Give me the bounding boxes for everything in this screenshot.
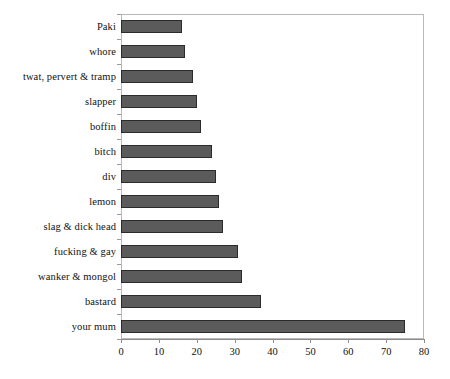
- bar: [121, 120, 201, 133]
- category-label: fucking & gay: [54, 246, 116, 258]
- bar-row: slag & dick head: [0, 214, 450, 239]
- bar: [121, 220, 223, 233]
- bar-track: [121, 264, 424, 289]
- category-label: slapper: [85, 96, 116, 108]
- category-label: slag & dick head: [44, 221, 116, 233]
- bar-row: bitch: [0, 139, 450, 164]
- bar-track: [121, 239, 424, 264]
- x-axis-tick-label: 70: [381, 345, 392, 358]
- bar-track: [121, 314, 424, 339]
- bar-row: fucking & gay: [0, 239, 450, 264]
- bar-row: lemon: [0, 189, 450, 214]
- bar-track: [121, 214, 424, 239]
- bar: [121, 195, 219, 208]
- x-axis-tick: [348, 339, 349, 343]
- x-axis-tick-label: 80: [419, 345, 430, 358]
- bar: [121, 245, 238, 258]
- y-axis-tick: [117, 214, 121, 215]
- x-axis-tick-label: 30: [229, 345, 240, 358]
- category-label: boffin: [90, 121, 116, 133]
- x-axis-tick: [235, 339, 236, 343]
- bar-row: your mum: [0, 314, 450, 339]
- bar: [121, 145, 212, 158]
- bar: [121, 20, 182, 33]
- y-axis-tick: [117, 139, 121, 140]
- bar: [121, 320, 405, 333]
- bar-track: [121, 39, 424, 64]
- bar-row: Paki: [0, 14, 450, 39]
- y-axis-tick: [117, 239, 121, 240]
- x-axis-tick: [273, 339, 274, 343]
- y-axis-tick: [117, 89, 121, 90]
- x-axis-tick: [310, 339, 311, 343]
- y-axis-tick: [117, 164, 121, 165]
- category-label: your mum: [72, 321, 116, 333]
- bar-track: [121, 289, 424, 314]
- category-label: bastard: [85, 296, 116, 308]
- bar: [121, 45, 185, 58]
- y-axis-tick: [117, 289, 121, 290]
- y-axis-tick: [117, 114, 121, 115]
- bar-track: [121, 64, 424, 89]
- bar-row: whore: [0, 39, 450, 64]
- x-axis-tick: [386, 339, 387, 343]
- x-axis-tick: [121, 339, 122, 343]
- x-axis-tick: [197, 339, 198, 343]
- category-label: div: [102, 171, 116, 183]
- x-axis-tick: [424, 339, 425, 343]
- bar-row: slapper: [0, 89, 450, 114]
- bar: [121, 170, 216, 183]
- bar: [121, 270, 242, 283]
- bar-track: [121, 164, 424, 189]
- category-label: whore: [89, 46, 116, 58]
- category-label: lemon: [89, 196, 116, 208]
- bar-track: [121, 139, 424, 164]
- x-axis-tick-label: 40: [267, 345, 278, 358]
- y-axis-tick: [117, 314, 121, 315]
- bar-chart: Pakiwhoretwat, pervert & trampslapperbof…: [0, 0, 450, 379]
- x-axis-tick-label: 50: [305, 345, 316, 358]
- x-axis-tick-label: 10: [154, 345, 165, 358]
- y-axis-tick: [117, 339, 121, 340]
- bar-track: [121, 114, 424, 139]
- bar-row: wanker & mongol: [0, 264, 450, 289]
- bar-row: bastard: [0, 289, 450, 314]
- bar-row: twat, pervert & tramp: [0, 64, 450, 89]
- bar-track: [121, 189, 424, 214]
- bar-rows-container: Pakiwhoretwat, pervert & trampslapperbof…: [0, 14, 450, 339]
- x-axis-tick-label: 60: [343, 345, 354, 358]
- category-label: wanker & mongol: [38, 271, 116, 283]
- y-axis-tick: [117, 14, 121, 15]
- bar-row: boffin: [0, 114, 450, 139]
- x-axis-tick: [159, 339, 160, 343]
- category-label: twat, pervert & tramp: [23, 71, 116, 83]
- x-axis-tick-label: 20: [192, 345, 203, 358]
- bar: [121, 295, 261, 308]
- category-label: bitch: [95, 146, 117, 158]
- y-axis-tick: [117, 189, 121, 190]
- bar-row: div: [0, 164, 450, 189]
- bar-track: [121, 14, 424, 39]
- bar: [121, 95, 197, 108]
- y-axis-tick: [117, 64, 121, 65]
- bar: [121, 70, 193, 83]
- y-axis-tick: [117, 264, 121, 265]
- category-label: Paki: [97, 21, 116, 33]
- x-axis-tick-label: 0: [118, 345, 123, 358]
- bar-track: [121, 89, 424, 114]
- y-axis-tick: [117, 39, 121, 40]
